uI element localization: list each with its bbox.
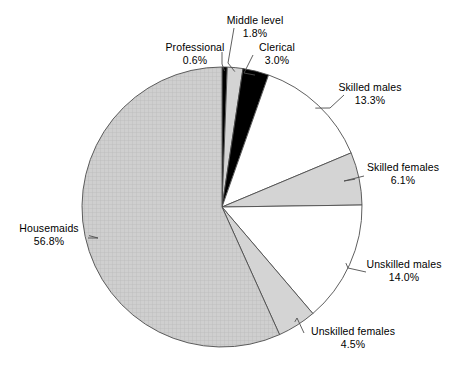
slice-label-housemaids-name: Housemaids xyxy=(5,222,93,235)
slice-label-unskilled-males: Unskilled males 14.0% xyxy=(354,258,454,284)
slice-label-unskilled-males-value: 14.0% xyxy=(354,271,454,284)
slice-label-clerical-name: Clerical xyxy=(237,41,317,54)
slice-label-housemaids-value: 56.8% xyxy=(5,235,93,248)
slice-label-professional-value: 0.6% xyxy=(147,54,243,67)
slice-label-skilled-males-name: Skilled males xyxy=(322,81,418,94)
slice-label-skilled-females-value: 6.1% xyxy=(355,174,451,187)
slice-label-professional-name: Professional xyxy=(147,41,243,54)
slice-label-middle-level-name: Middle level xyxy=(207,14,303,27)
slice-label-clerical: Clerical 3.0% xyxy=(237,41,317,67)
slice-label-unskilled-females-name: Unskilled females xyxy=(298,325,408,338)
slice-label-unskilled-females-value: 4.5% xyxy=(298,338,408,351)
slice-label-middle-level: Middle level 1.8% xyxy=(207,14,303,40)
pie-slices-group xyxy=(82,67,362,347)
pie-chart: Professional 0.6% Middle level 1.8% Cler… xyxy=(0,0,454,369)
slice-label-middle-level-value: 1.8% xyxy=(207,27,303,40)
slice-label-skilled-males: Skilled males 13.3% xyxy=(322,81,418,107)
slice-label-unskilled-males-name: Unskilled males xyxy=(354,258,454,271)
slice-label-skilled-females: Skilled females 6.1% xyxy=(355,161,451,187)
slice-label-skilled-females-name: Skilled females xyxy=(355,161,451,174)
slice-label-professional: Professional 0.6% xyxy=(147,41,243,67)
slice-label-clerical-value: 3.0% xyxy=(237,54,317,67)
slice-label-unskilled-females: Unskilled females 4.5% xyxy=(298,325,408,351)
slice-label-housemaids: Housemaids 56.8% xyxy=(5,222,93,248)
slice-label-skilled-males-value: 13.3% xyxy=(322,94,418,107)
